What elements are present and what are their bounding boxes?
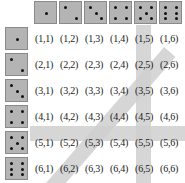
outcome-cell: (3,4) bbox=[110, 86, 128, 96]
outcome-grid: (1,1)(1,2)(1,3)(1,4)(1,5)(1,6)(2,1)(2,2)… bbox=[0, 0, 185, 183]
outcome-cell: (1,1) bbox=[35, 34, 53, 44]
outcome-cell: (1,5) bbox=[135, 34, 153, 44]
outcome-cell: (1,6) bbox=[160, 34, 178, 44]
outcome-cell: (5,5) bbox=[135, 138, 153, 148]
outcome-cell: (5,1) bbox=[35, 138, 53, 148]
outcome-cell: (1,4) bbox=[110, 34, 128, 44]
outcome-cell: (2,4) bbox=[110, 60, 128, 70]
outcome-cell: (6,5) bbox=[135, 164, 153, 174]
outcome-cell: (4,2) bbox=[60, 112, 78, 122]
outcome-cell: (6,2) bbox=[60, 164, 78, 174]
outcome-cell: (5,3) bbox=[85, 138, 103, 148]
outcome-cell: (3,1) bbox=[35, 86, 53, 96]
outcome-cell: (6,3) bbox=[85, 164, 103, 174]
outcome-cell: (6,6) bbox=[160, 164, 178, 174]
outcome-cell: (4,1) bbox=[35, 112, 53, 122]
outcome-cell: (2,5) bbox=[135, 60, 153, 70]
outcome-cell: (3,2) bbox=[60, 86, 78, 96]
outcome-cell: (3,3) bbox=[85, 86, 103, 96]
outcome-cell: (6,4) bbox=[110, 164, 128, 174]
outcome-cell: (2,3) bbox=[85, 60, 103, 70]
outcome-cell: (4,6) bbox=[160, 112, 178, 122]
outcome-cell: (2,1) bbox=[35, 60, 53, 70]
outcome-cell: (4,5) bbox=[135, 112, 153, 122]
outcome-cell: (4,4) bbox=[110, 112, 128, 122]
dice-sample-space-figure: (1,1)(1,2)(1,3)(1,4)(1,5)(1,6)(2,1)(2,2)… bbox=[0, 0, 185, 183]
outcome-cell: (2,6) bbox=[160, 60, 178, 70]
outcome-cell: (5,4) bbox=[110, 138, 128, 148]
outcome-cell: (6,1) bbox=[35, 164, 53, 174]
outcome-cell: (1,2) bbox=[60, 34, 78, 44]
outcome-cell: (5,6) bbox=[160, 138, 178, 148]
outcome-cell: (3,5) bbox=[135, 86, 153, 96]
outcome-cell: (3,6) bbox=[160, 86, 178, 96]
outcome-cell: (4,3) bbox=[85, 112, 103, 122]
outcome-cell: (2,2) bbox=[60, 60, 78, 70]
outcome-cell: (1,3) bbox=[85, 34, 103, 44]
outcome-cell: (5,2) bbox=[60, 138, 78, 148]
